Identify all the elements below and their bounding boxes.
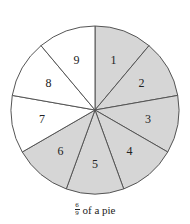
pie-diagram: 123456789 [0,0,190,224]
slice-label-4: 4 [127,144,133,158]
slice-label-9: 9 [74,53,80,67]
slice-label-5: 5 [92,157,98,171]
caption-text: of a pie [83,204,116,216]
slice-label-3: 3 [145,112,151,126]
slice-label-2: 2 [139,76,145,90]
slice-label-7: 7 [39,112,45,126]
slice-label-1: 1 [110,53,116,67]
fraction-numerator: 6 [75,202,79,209]
caption: 6 9 of a pie [0,202,190,217]
slice-label-8: 8 [45,76,51,90]
fraction-denominator: 9 [75,210,79,217]
slice-label-6: 6 [57,144,63,158]
fraction: 6 9 [75,202,80,217]
